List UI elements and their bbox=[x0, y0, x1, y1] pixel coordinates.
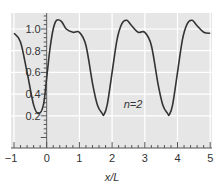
x-tick-label: 0 bbox=[44, 152, 50, 164]
x-axis-label: x/L bbox=[104, 171, 120, 183]
x-tick-label: 5 bbox=[207, 152, 213, 164]
x-tick-label: 1 bbox=[76, 152, 82, 164]
y-tick-label: 0.6 bbox=[25, 66, 40, 78]
y-tick-label: 0.4 bbox=[25, 88, 40, 100]
annotation-n2: n=2 bbox=[124, 98, 143, 110]
x-tick-label: 3 bbox=[142, 152, 148, 164]
y-tick-label: 0.8 bbox=[25, 45, 40, 57]
y-tick-label: 0.2 bbox=[25, 110, 40, 122]
y-tick-label: 1.0 bbox=[25, 23, 40, 35]
chart: −1012345 0.20.40.60.81.0 x/L n=2 bbox=[0, 0, 223, 186]
x-tick-label: −1 bbox=[5, 152, 18, 164]
x-tick-labels: −1012345 bbox=[5, 152, 214, 164]
x-tick-label: 4 bbox=[174, 152, 180, 164]
x-tick-label: 2 bbox=[109, 152, 115, 164]
